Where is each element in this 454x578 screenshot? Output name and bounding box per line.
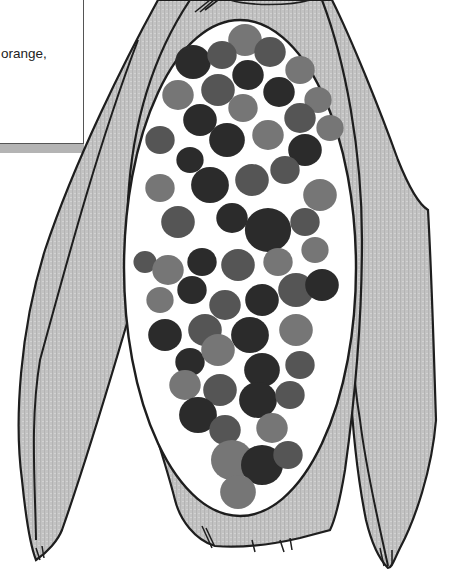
kernel bbox=[232, 60, 264, 90]
kernel bbox=[220, 475, 256, 509]
kernel bbox=[148, 319, 182, 351]
kernel bbox=[284, 103, 316, 133]
kernel bbox=[145, 174, 174, 202]
kernel bbox=[145, 126, 174, 154]
kernel bbox=[263, 77, 295, 107]
kernel bbox=[231, 317, 269, 353]
kernel bbox=[256, 413, 288, 443]
kernel bbox=[275, 381, 304, 409]
corn-drawing bbox=[0, 0, 454, 578]
kernel bbox=[244, 353, 280, 387]
kernel bbox=[187, 248, 216, 276]
kernel bbox=[201, 74, 235, 106]
kernel bbox=[270, 156, 299, 184]
kernel bbox=[146, 287, 173, 313]
kernel bbox=[209, 290, 241, 320]
kernel bbox=[273, 441, 302, 469]
kernel bbox=[254, 37, 286, 67]
kernel bbox=[221, 249, 255, 281]
kernel bbox=[245, 208, 291, 252]
kernel bbox=[228, 94, 257, 122]
kernel bbox=[245, 284, 279, 316]
kernel bbox=[252, 120, 284, 150]
kernel bbox=[279, 314, 313, 346]
corn-illustration: orange, bbox=[0, 0, 454, 578]
kernel bbox=[201, 334, 235, 366]
kernel bbox=[216, 203, 248, 233]
kernel bbox=[169, 370, 201, 400]
kernel bbox=[235, 164, 269, 196]
kernel bbox=[176, 147, 203, 173]
kernel bbox=[316, 115, 343, 141]
kernel bbox=[263, 248, 292, 276]
kernel bbox=[191, 167, 229, 203]
kernel bbox=[303, 179, 337, 211]
kernel bbox=[152, 255, 184, 285]
kernel bbox=[301, 237, 328, 263]
kernel bbox=[285, 56, 314, 84]
kernel bbox=[162, 80, 194, 110]
kernel bbox=[290, 208, 319, 236]
kernel bbox=[175, 45, 211, 79]
kernel bbox=[161, 206, 195, 238]
kernel bbox=[177, 276, 206, 304]
kernel bbox=[239, 382, 277, 418]
kernel bbox=[207, 41, 236, 69]
kernel bbox=[285, 351, 314, 379]
kernel bbox=[305, 269, 339, 301]
kernel bbox=[209, 123, 245, 157]
